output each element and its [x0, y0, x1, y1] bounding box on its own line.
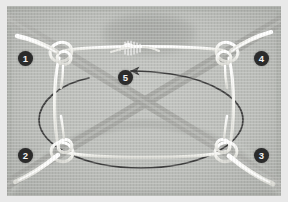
- step-marker-4: 4: [254, 51, 269, 66]
- step-marker-3: 3: [254, 148, 269, 163]
- lacing-diagram-figure: 1 2 3 4 5 Top-down photographic diagram …: [0, 0, 288, 202]
- diagram-canvas: [7, 6, 281, 196]
- step-marker-2: 2: [18, 148, 33, 163]
- photo-plate: [7, 6, 281, 196]
- step-marker-5: 5: [118, 70, 133, 85]
- step-marker-1: 1: [18, 51, 33, 66]
